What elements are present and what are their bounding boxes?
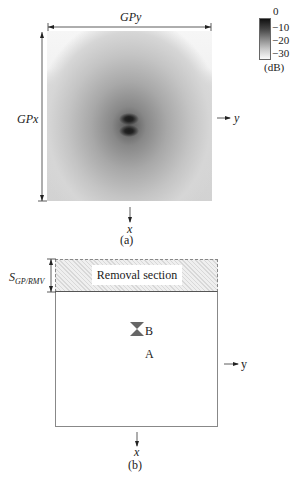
y-axis-label: y [234, 111, 239, 126]
colorbar [259, 18, 271, 60]
y-axis-label-b: y [241, 357, 247, 372]
gpy-label: GPy [120, 10, 141, 25]
s-label-subscript: GP/RMV [15, 277, 44, 286]
colorbar-tick-0: 0 [273, 6, 279, 17]
colorbar-unit: (dB) [264, 62, 284, 73]
marker-b-label: B [145, 324, 153, 339]
colorbar-tick-10: −10 [272, 22, 289, 33]
s-gp-rmv-label: SGP/RMV [9, 270, 44, 286]
field-distribution-heatmap [47, 31, 212, 201]
caption-b: (b) [128, 458, 142, 473]
colorbar-tick-30: −30 [272, 48, 289, 59]
marker-a-label: A [145, 347, 154, 362]
colorbar-tick-20: −20 [272, 35, 289, 46]
gpx-label: GPx [17, 112, 38, 127]
